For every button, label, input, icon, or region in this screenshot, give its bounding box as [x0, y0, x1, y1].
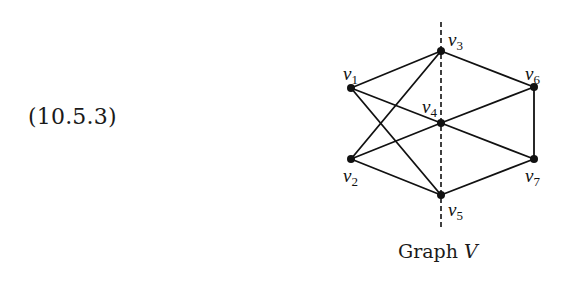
label-v6: v6	[525, 63, 540, 87]
edge-v3-v6	[441, 51, 534, 87]
caption-graph-name: V	[464, 240, 478, 262]
edge-v1-v3	[351, 51, 441, 88]
edge-v2-v4	[351, 123, 441, 159]
label-v7: v7	[525, 165, 540, 189]
vertex-v4	[437, 119, 445, 127]
vertex-v2	[347, 155, 355, 163]
graph-caption: Graph V	[398, 240, 478, 262]
label-v5: v5	[448, 199, 463, 223]
label-v4: v4	[422, 96, 437, 120]
vertex-v7	[530, 155, 538, 163]
vertex-v5	[437, 191, 445, 199]
graph-v-diagram: v1 v2 v3 v4 v5 v6 v7	[0, 0, 570, 283]
label-v3: v3	[448, 29, 463, 53]
label-v1: v1	[343, 63, 358, 87]
edge-v4-v7	[441, 123, 534, 159]
edge-v5-v7	[441, 159, 534, 195]
edge-v4-v6	[441, 87, 534, 123]
caption-prefix: Graph	[398, 240, 458, 262]
vertex-v3	[437, 47, 445, 55]
edge-v2-v5	[351, 159, 441, 195]
vertices	[347, 47, 538, 199]
label-v2: v2	[343, 165, 358, 189]
